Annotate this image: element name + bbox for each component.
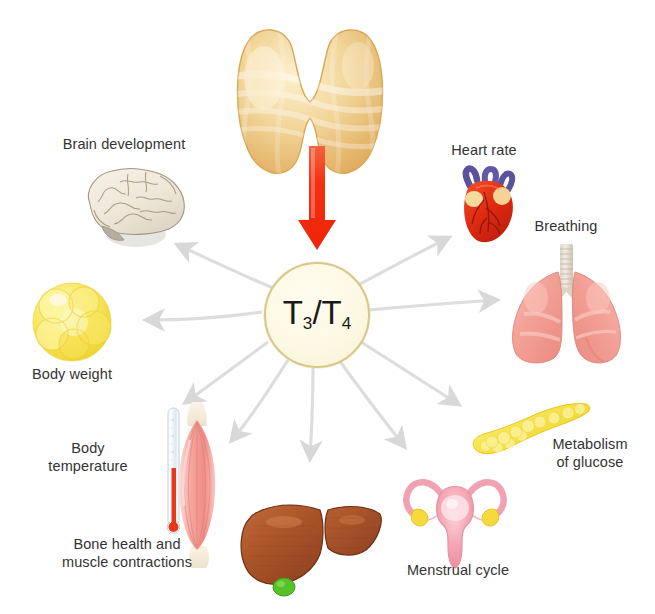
liver-illustration (228, 492, 386, 602)
heart-illustration (452, 166, 524, 248)
hormone-circle[interactable]: T3/T4 (264, 262, 370, 368)
uterus-illustration (398, 468, 512, 572)
body-temperature-line2: temperature (48, 458, 127, 474)
metabolism-glucose-label: Metabolismof glucose (528, 436, 652, 471)
brain-illustration (74, 162, 192, 257)
metabolism-line2: of glucose (556, 454, 623, 470)
body-temperature-line1: Body (71, 440, 104, 456)
hormone-label: T3/T4 (283, 296, 352, 333)
diagram-canvas: T3/T4 (0, 0, 655, 614)
heart-rate-label: Heart rate (431, 142, 537, 160)
bone-health-line2: muscle contractions (62, 554, 192, 570)
body-weight-label: Body weight (10, 366, 134, 384)
bone-health-line1: Bone health and (73, 536, 180, 552)
lungs-illustration (498, 242, 634, 370)
bone-health-muscle-label: Bone health andmuscle contractions (32, 536, 222, 571)
metabolism-line1: Metabolism (552, 436, 627, 452)
brain-development-label: Brain development (48, 136, 200, 154)
menstrual-cycle-label: Menstrual cycle (388, 562, 528, 580)
body-temperature-label: Bodytemperature (28, 440, 148, 475)
fat-cells-illustration (22, 276, 122, 368)
